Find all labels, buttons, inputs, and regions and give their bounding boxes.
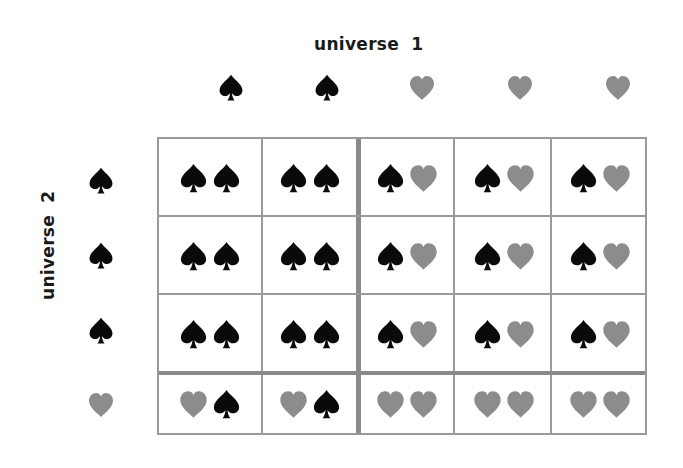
heart-icon [407,318,440,351]
grid-cell [552,139,647,217]
grid-cell [159,373,261,435]
spade-icon [216,73,246,103]
heart-icon [600,162,633,195]
grid-cell [455,295,552,373]
heart-icon [600,240,633,273]
spade-icon [86,241,116,271]
heart-icon [177,388,210,421]
heart-icon [600,388,633,421]
spade-icon [471,162,504,195]
spade-icon [210,162,243,195]
grid-cell [552,217,647,295]
grid-cell [358,217,455,295]
grid-cell [455,139,552,217]
spade-icon [210,318,243,351]
spade-icon [86,316,116,346]
heart-icon [504,318,537,351]
universe-1-label: universe 1 [314,34,423,54]
spade-icon [374,318,407,351]
spade-icon [310,240,343,273]
heart-icon [471,388,504,421]
grid-cell [358,295,455,373]
heart-icon [86,390,116,420]
grid-cell [159,217,261,295]
spade-icon [567,318,600,351]
grid-cell [455,217,552,295]
spade-icon [177,162,210,195]
heart-icon [407,388,440,421]
spade-icon [312,73,342,103]
spade-icon [177,240,210,273]
spade-icon [310,318,343,351]
spade-icon [86,166,116,196]
spade-icon [310,388,343,421]
grid-cell [159,139,261,217]
heart-icon [407,162,440,195]
heart-icon [600,318,633,351]
heart-icon [603,73,633,103]
grid-cell [261,139,358,217]
spade-icon [374,240,407,273]
spade-icon [310,162,343,195]
grid-cell [159,295,261,373]
spade-icon [277,240,310,273]
spade-icon [210,240,243,273]
heart-icon [407,240,440,273]
heart-icon [505,73,535,103]
universe-2-label: universe 2 [38,191,58,300]
spade-icon [277,162,310,195]
grid-cell [261,373,358,435]
heart-icon [567,388,600,421]
grid-cell [552,295,647,373]
grid-cell [552,373,647,435]
grid-cell [455,373,552,435]
grid-cell [261,295,358,373]
heart-icon [407,73,437,103]
spade-icon [277,318,310,351]
outcome-grid [157,137,647,435]
heart-icon [504,162,537,195]
spade-icon [177,318,210,351]
spade-icon [567,240,600,273]
heart-icon [374,388,407,421]
spade-icon [567,162,600,195]
spade-icon [471,318,504,351]
spade-icon [210,388,243,421]
grid-cell [358,139,455,217]
spade-icon [471,240,504,273]
grid-cell [261,217,358,295]
grid-cell [358,373,455,435]
heart-icon [277,388,310,421]
heart-icon [504,240,537,273]
spade-icon [374,162,407,195]
heart-icon [504,388,537,421]
